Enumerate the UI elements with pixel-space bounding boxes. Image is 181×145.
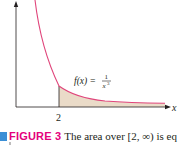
figure-graph: x 2 f(x) = 1 x 3 [0, 0, 181, 145]
x-tick-2: 2 [56, 112, 61, 123]
curve-1-over-x-cubed [35, 0, 165, 103]
y-axis-arrow [14, 1, 18, 7]
figure-caption: FIGURE 3The area over [2, ∞) is eq [0, 130, 177, 142]
function-label-lhs: f(x) = [74, 76, 96, 87]
shaded-area [59, 86, 165, 107]
caption-text: The area over [2, ∞) is eq [64, 130, 177, 142]
function-exponent: 3 [107, 81, 110, 86]
media-icon [0, 132, 7, 141]
x-axis-arrow [165, 105, 171, 109]
figure-label: FIGURE 3 [9, 130, 61, 142]
function-denominator: x [102, 82, 107, 90]
x-axis-label: x [171, 102, 177, 113]
function-numerator: 1 [105, 73, 109, 81]
